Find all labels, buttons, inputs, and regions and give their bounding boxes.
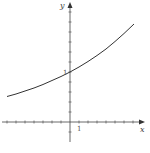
x-axis-label: x (140, 125, 145, 134)
x-axis-arrow-icon (139, 120, 145, 125)
exponential-curve (7, 24, 134, 97)
x-unit-label: 1 (77, 125, 81, 133)
x-axis (2, 120, 145, 125)
y-unit-label: 1 (63, 69, 67, 77)
chart: y x 1 1 (0, 0, 150, 153)
y-axis-label: y (59, 1, 65, 10)
y-axis-arrow-icon (68, 2, 73, 8)
